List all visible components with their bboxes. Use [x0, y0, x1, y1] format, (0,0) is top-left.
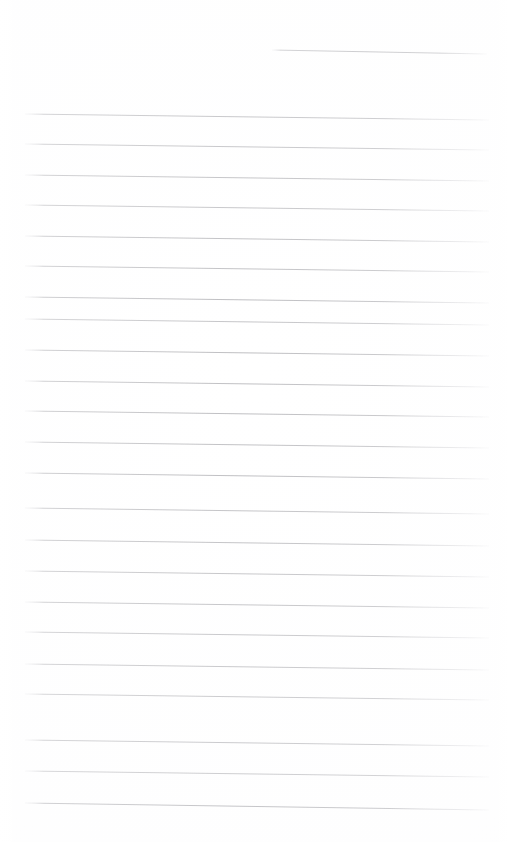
- rule-10: [25, 381, 489, 387]
- rule-22: [25, 771, 489, 777]
- rule-6: [25, 266, 489, 272]
- rule-5: [25, 236, 489, 242]
- rule-20: [25, 694, 489, 700]
- rule-4: [25, 205, 489, 211]
- rule-1: [25, 114, 489, 120]
- rule-2: [25, 144, 489, 150]
- rule-partial-top: [272, 50, 487, 54]
- rule-8: [25, 319, 489, 325]
- rule-19: [25, 664, 489, 670]
- rule-15: [25, 540, 489, 546]
- rule-9: [25, 350, 489, 356]
- rule-7: [25, 297, 489, 303]
- rule-13: [25, 473, 489, 479]
- rule-14: [25, 508, 489, 514]
- rule-21: [25, 740, 489, 746]
- rule-11: [25, 411, 489, 417]
- ruled-lines-layer: [0, 0, 508, 842]
- rule-18: [25, 632, 489, 638]
- scanned-page: [0, 0, 508, 842]
- rule-3: [25, 175, 489, 181]
- ruled-lines-group: [25, 50, 489, 810]
- rule-17: [25, 602, 489, 608]
- rule-23: [25, 803, 489, 810]
- rule-12: [25, 442, 489, 448]
- rule-16: [25, 571, 489, 577]
